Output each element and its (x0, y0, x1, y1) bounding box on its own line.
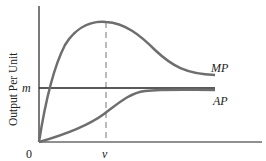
diagram-canvas: MP AP m v 0 Output Per Unit (0, 0, 266, 161)
y-axis-label: Output Per Unit (7, 52, 20, 126)
diagram: MP AP m v 0 Output Per Unit (0, 0, 266, 161)
mp-curve (39, 22, 215, 142)
ap-label: AP (212, 94, 228, 108)
m-label: m (22, 81, 31, 95)
ap-curve (39, 90, 215, 142)
v-label: v (102, 147, 108, 161)
mp-label: MP (210, 61, 229, 75)
origin-label: 0 (26, 147, 32, 161)
